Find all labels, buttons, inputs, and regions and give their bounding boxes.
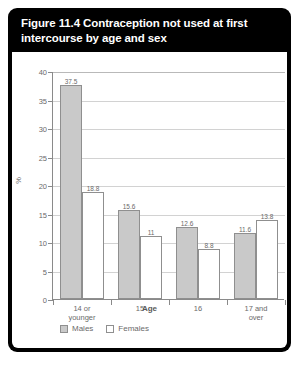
bar-males-2: 12.6: [176, 227, 198, 299]
bar-value-label: 18.8: [87, 185, 100, 192]
y-tick-label: 5: [25, 267, 47, 276]
gridline: [53, 129, 285, 130]
y-tick-label: 10: [25, 239, 47, 248]
bar-value-label: 37.5: [65, 78, 78, 85]
legend-item-females: Females: [106, 324, 149, 333]
females-swatch: [106, 325, 114, 333]
bar-value-label: 15.6: [123, 203, 136, 210]
y-tick: [48, 272, 53, 273]
y-tick: [48, 101, 53, 102]
y-tick: [48, 72, 53, 73]
y-tick: [48, 186, 53, 187]
y-tick: [48, 243, 53, 244]
legend-label: Females: [118, 324, 149, 333]
y-tick-label: 25: [25, 153, 47, 162]
bar-males-3: 11.6: [234, 233, 256, 299]
bar-females-3: 13.8: [256, 220, 278, 299]
y-tick: [48, 129, 53, 130]
males-swatch: [60, 325, 68, 333]
bar-males-0: 37.5: [60, 85, 82, 299]
bar-value-label: 13.8: [261, 213, 274, 220]
y-tick: [48, 215, 53, 216]
chart-card: % 0510152025303540 37.518.815.61112.68.8…: [12, 52, 287, 348]
gridline: [53, 101, 285, 102]
gridline: [53, 72, 285, 73]
y-axis-label: %: [14, 177, 23, 184]
bar-males-1: 15.6: [118, 210, 140, 299]
bar-value-label: 11: [148, 229, 155, 236]
plot-area: % 0510152025303540 37.518.815.61112.68.8…: [52, 72, 284, 300]
bar-value-label: 11.6: [239, 226, 251, 233]
y-tick-label: 40: [25, 68, 47, 77]
y-tick-label: 20: [25, 182, 47, 191]
chart-legend: MalesFemales: [60, 324, 149, 333]
figure-frame: Figure 11.4 Contraception not used at fi…: [8, 8, 291, 352]
bar-females-2: 8.8: [198, 249, 220, 299]
x-axis-label: Age: [12, 304, 287, 313]
figure-title: Figure 11.4 Contraception not used at fi…: [8, 8, 291, 54]
y-tick: [48, 158, 53, 159]
bar-value-label: 12.6: [181, 220, 194, 227]
bar-value-label: 8.8: [204, 242, 213, 249]
y-tick-label: 30: [25, 125, 47, 134]
legend-label: Males: [72, 324, 93, 333]
bar-females-0: 18.8: [82, 192, 104, 299]
y-tick-label: 35: [25, 96, 47, 105]
bar-females-1: 11: [140, 236, 162, 299]
y-tick-label: 15: [25, 210, 47, 219]
gridline: [53, 158, 285, 159]
legend-item-males: Males: [60, 324, 93, 333]
